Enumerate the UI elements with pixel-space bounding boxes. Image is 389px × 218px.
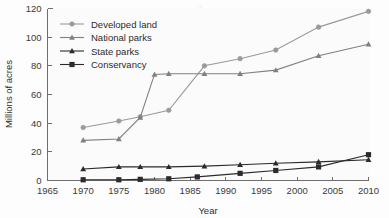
square-marker [238,171,243,176]
square-marker [195,174,200,179]
x-tick-label: 1980 [144,185,165,196]
circle-marker [273,48,278,53]
y-tick-label: 100 [26,32,42,43]
x-tick-label: 1990 [215,185,236,196]
y-tick-label: 20 [31,146,42,157]
x-tick-label: 1985 [180,185,201,196]
legend-label: Developed land [91,19,157,30]
y-tick-label: 60 [31,89,42,100]
circle-marker [117,119,122,124]
legend-label: National parks [91,32,152,43]
circle-marker [166,108,171,113]
circle-marker [316,25,321,30]
line-chart: the more resourceconservation ofland and… [0,0,389,218]
legend-label: State parks [91,46,139,57]
square-marker [316,164,321,169]
x-tick-label: 1995 [251,185,272,196]
legend-label: Conservancy [91,59,147,70]
circle-marker [366,9,371,14]
x-tick-label: 2005 [322,185,343,196]
x-tick-label: 2010 [358,185,379,196]
square-marker [366,152,371,157]
x-tick-label: 1975 [108,185,129,196]
circle-marker [202,64,207,69]
y-tick-label: 120 [26,3,42,14]
y-axis-title: Millions of acres [3,60,14,128]
y-tick-label: 80 [31,60,42,71]
square-marker [166,176,171,181]
x-tick-label: 2000 [287,185,308,196]
circle-marker [238,56,243,61]
square-marker [69,62,74,67]
y-tick-label: 40 [31,118,42,129]
square-marker [116,177,121,182]
square-marker [138,177,143,182]
square-marker [273,168,278,173]
circle-marker [81,125,86,130]
x-tick-label: 1965 [37,185,58,196]
square-marker [81,177,86,182]
x-tick-label: 1970 [73,185,94,196]
x-axis-title: Year [198,205,217,216]
chart-canvas: the more resourceconservation ofland and… [0,0,389,218]
circle-marker [70,22,75,27]
